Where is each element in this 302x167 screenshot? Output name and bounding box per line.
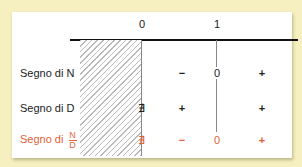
sign-n-between: − [179, 67, 185, 79]
tick-label-1: 1 [214, 18, 220, 30]
row-label-n: Segno di N [20, 67, 74, 79]
sign-d-at-0: ∄ [138, 102, 145, 115]
row-label-fraction: Segno di N D [20, 131, 77, 150]
divider-at-1 [216, 40, 217, 132]
sign-frac-between: − [179, 134, 185, 146]
sign-table-card: 0 1 Segno di N − 0 + Segno di D ∄ + + Se… [12, 12, 292, 158]
sign-d-right: + [259, 102, 265, 114]
tick-label-0: 0 [139, 18, 145, 30]
row-label-d: Segno di D [20, 102, 74, 114]
sign-frac-right: + [259, 134, 265, 146]
fraction-denominator: D [69, 141, 76, 150]
fraction-n-over-d: N D [69, 131, 77, 150]
sign-d-between: + [179, 102, 185, 114]
excluded-region-hatch [80, 40, 141, 156]
sign-frac-at-1: 0 [214, 134, 220, 146]
sign-frac-at-0: ∄ [138, 134, 145, 147]
row-label-fraction-text: Segno di [20, 133, 63, 145]
sign-n-right: + [259, 67, 265, 79]
fraction-numerator: N [69, 131, 76, 140]
sign-n-at-1: 0 [212, 67, 222, 79]
